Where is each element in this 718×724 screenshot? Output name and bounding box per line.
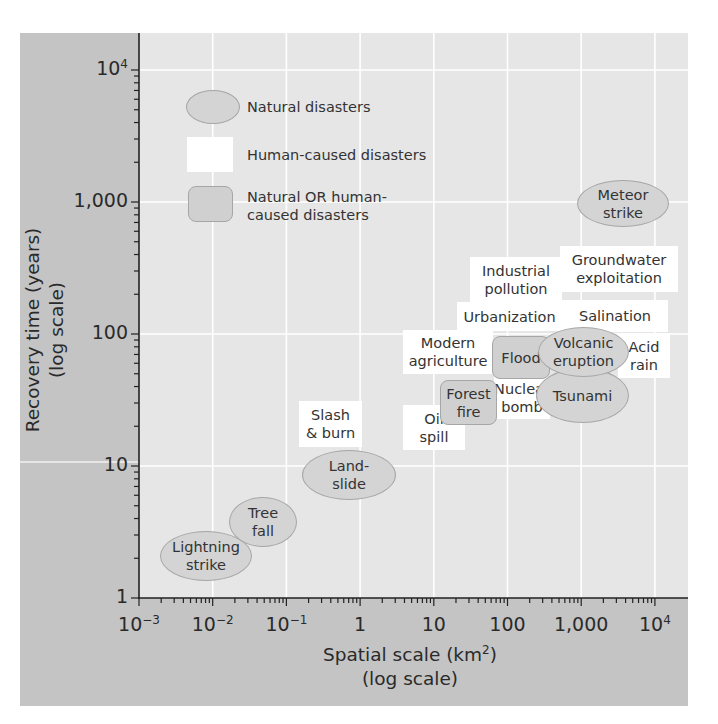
legend-swatch-both: [188, 186, 233, 222]
y-tick-label: 1,000: [74, 189, 128, 211]
x-tick-label: 1,000: [554, 613, 608, 635]
data-point-urbanization: Urbanization: [457, 302, 562, 331]
x-tick-label: 104: [639, 613, 671, 635]
data-point-industrial-pollution: Industrial pollution: [470, 257, 562, 303]
x-tick-label: 1: [354, 613, 366, 635]
data-point-slash-burn: Slash & burn: [299, 401, 362, 447]
data-point-groundwater-exploitation: Groundwater exploitation: [560, 246, 678, 292]
x-axis-title: Spatial scale (km2) (log scale): [323, 643, 497, 691]
y-tick-label: 1: [116, 585, 128, 607]
x-axis-title-line1: Spatial scale (km2): [323, 643, 497, 667]
legend-swatch-natural: [186, 90, 240, 124]
x-tick-label: 10−3: [118, 613, 160, 635]
x-tick-label: 10−2: [192, 613, 234, 635]
data-point-modern-agriculture: Modern agriculture: [403, 330, 493, 374]
y-axis-title-line1: Recovery time (years): [21, 228, 45, 433]
x-tick-label: 10: [422, 613, 446, 635]
y-tick-label: 10: [104, 453, 128, 475]
y-axis-title-line2: (log scale): [45, 228, 69, 433]
y-axis-title: Recovery time (years) (log scale): [21, 228, 69, 433]
y-tick-label: 100: [92, 321, 128, 343]
data-point-volcanic-eruption: Volcanic eruption: [538, 327, 629, 377]
y-tick-label: 104: [96, 57, 128, 79]
x-axis-title-line2: (log scale): [323, 667, 497, 691]
data-point-meteor-strike: Meteor strike: [577, 180, 669, 227]
data-point-forest-fire: Forest fire: [440, 380, 497, 425]
legend-label-natural: Natural disasters: [247, 98, 370, 116]
x-tick-label: 10−1: [265, 613, 307, 635]
data-point-tree-fall: Tree fall: [229, 497, 297, 547]
x-tick-label: 100: [489, 613, 525, 635]
legend-label-human: Human-caused disasters: [247, 146, 426, 164]
legend-swatch-human: [187, 137, 233, 172]
legend-label-both: Natural OR human- caused disasters: [247, 188, 387, 224]
data-point-land-slide: Land- slide: [302, 450, 396, 500]
